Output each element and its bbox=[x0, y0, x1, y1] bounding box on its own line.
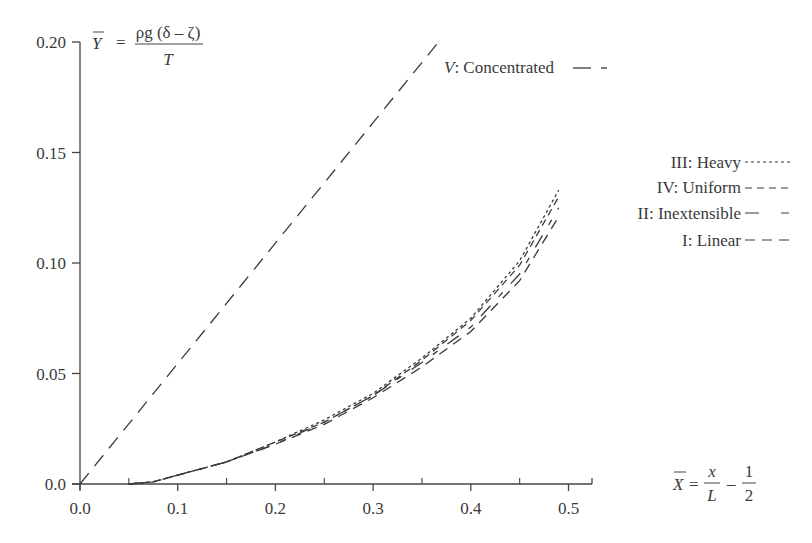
legend-item-inextensible: II: Inextensible bbox=[638, 204, 793, 223]
x-tick-label: 0.3 bbox=[362, 499, 383, 518]
x-axis-minus: – bbox=[726, 474, 736, 493]
x-axis-title: X = x L – 1 2 bbox=[672, 462, 756, 505]
x-tick-label: 0.0 bbox=[69, 499, 90, 518]
concentrated-text: : Concentrated bbox=[454, 58, 554, 77]
y-axis-numerator: ρg (δ – ζ) bbox=[136, 23, 201, 42]
x-frac1-num: x bbox=[707, 462, 716, 481]
y-tick-label: 0.0 bbox=[45, 475, 66, 494]
axes bbox=[72, 42, 592, 490]
x-axis-symbol: X bbox=[672, 475, 684, 494]
legend-label-linear: I: Linear bbox=[682, 231, 741, 250]
y-tick-label: 0.15 bbox=[36, 144, 66, 163]
legend-label-uniform: IV: Uniform bbox=[657, 178, 741, 197]
x-axis-equals: = bbox=[689, 475, 699, 494]
x-frac2-den: 2 bbox=[745, 486, 754, 505]
legend-item-linear: I: Linear bbox=[682, 231, 793, 250]
y-axis-denominator: T bbox=[163, 50, 174, 69]
series-ii-inextensible bbox=[129, 208, 559, 484]
series-iii-heavy bbox=[129, 190, 559, 484]
x-frac1-den: L bbox=[706, 486, 716, 505]
y-axis-symbol: Y bbox=[92, 34, 103, 53]
legend-item-heavy: III: Heavy bbox=[671, 153, 793, 172]
legend-label-inextensible: II: Inextensible bbox=[638, 204, 741, 223]
x-tick-label: 0.2 bbox=[265, 499, 286, 518]
series-i-linear bbox=[129, 217, 559, 484]
legend-item-uniform: IV: Uniform bbox=[657, 178, 793, 197]
y-tick-label: 0.05 bbox=[36, 365, 66, 384]
y-tick-label: 0.10 bbox=[36, 254, 66, 273]
x-tick-label: 0.4 bbox=[460, 499, 482, 518]
y-axis-equals: = bbox=[116, 33, 126, 52]
concentrated-label: V: Concentrated bbox=[444, 58, 554, 77]
legend: III: Heavy IV: Uniform II: Inextensible … bbox=[638, 153, 793, 250]
x-tick-label: 0.5 bbox=[558, 499, 579, 518]
y-tick-label: 0.20 bbox=[36, 33, 66, 52]
series-v-concentrated bbox=[80, 42, 439, 484]
y-ticks: 0.00.050.100.150.20 bbox=[36, 33, 80, 494]
chart: 0.00.050.100.150.20 0.00.10.20.30.40.5 Y… bbox=[0, 0, 812, 543]
concentrated-annotation: V: Concentrated bbox=[444, 58, 607, 77]
series-layer bbox=[80, 42, 559, 484]
legend-label-heavy: III: Heavy bbox=[671, 153, 742, 172]
y-axis-title: Y = ρg (δ – ζ) T bbox=[92, 23, 203, 69]
series-iv-uniform bbox=[129, 197, 559, 484]
x-frac2-num: 1 bbox=[745, 462, 754, 481]
x-tick-label: 0.1 bbox=[167, 499, 188, 518]
